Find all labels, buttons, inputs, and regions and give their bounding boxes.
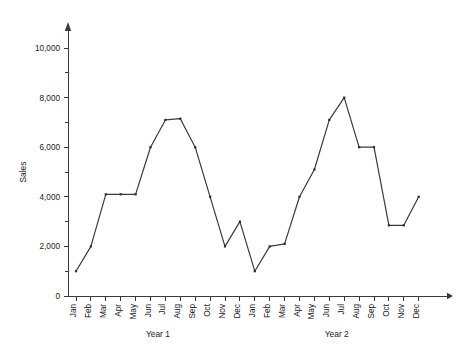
x-tick-label-month: Jul [158,304,167,315]
x-axis [68,293,453,301]
data-point-marker [403,224,405,226]
x-tick-label-month: Mar [99,304,108,318]
data-point-marker [224,245,226,247]
data-point-marker [343,97,345,99]
x-tick-label-month: Dec [412,304,421,319]
data-point-marker [269,245,271,247]
data-point-marker [75,270,77,272]
y-axis-arrow-icon [65,22,71,31]
y-tick-label: 8,000 [40,94,61,103]
y-axis [64,22,72,296]
x-axis-group-label: Year 1 [146,329,170,339]
x-tick-labels: JanFebMarAprMayJunJulAugSepOctNovDecJanF… [69,303,421,319]
x-tick-label-month: Dec [233,304,242,319]
y-tick-label: 6,000 [40,143,61,152]
data-point-marker [313,168,315,170]
x-tick-label-month: Oct [382,303,391,316]
x-tick-label-month: Jun [322,304,331,318]
data-point-marker [135,193,137,195]
data-point-marker [239,221,241,223]
x-tick-label-month: Jan [248,304,257,318]
y-tick-label: 10,000 [35,44,60,53]
data-point-marker [418,196,420,198]
x-tick-label-month: Sep [188,304,197,319]
x-tick-label-month: Apr [114,304,123,317]
x-tick-label-month: Nov [397,303,406,318]
x-tick-label-month: Jun [144,304,153,318]
data-point-marker [388,224,390,226]
x-tick-label-month: Nov [218,303,227,318]
chart-canvas: 02,0004,0006,0008,00010,000 JanFebMarApr… [0,0,462,352]
data-point-marker [373,146,375,148]
data-point-marker [164,119,166,121]
y-tick-label: 0 [55,292,60,301]
data-point-marker [105,193,107,195]
y-tick-label: 2,000 [40,242,61,251]
x-tick-label-month: Jan [69,304,78,318]
x-axis-group-label: Year 2 [325,329,349,339]
data-point-marker [179,118,181,120]
data-point-marker [120,193,122,195]
x-tick-label-month: Feb [84,304,93,319]
x-tick-label-month: Sep [367,304,376,319]
sales-series [75,97,420,273]
x-tick-label-month: Mar [278,304,287,318]
x-tick-label-month: Oct [203,303,212,316]
data-point-marker [209,196,211,198]
x-tick-label-month: May [307,303,316,319]
x-tick-label-month: Apr [293,304,302,317]
data-point-marker [90,245,92,247]
x-tick-label-month: Feb [263,304,272,319]
x-tick-label-month: Aug [352,304,361,319]
x-tick-label-month: Aug [173,304,182,319]
data-point-marker [194,146,196,148]
data-point-marker [358,146,360,148]
data-point-marker [254,270,256,272]
x-axis-arrow-icon [447,293,453,299]
y-tick-label: 4,000 [40,193,61,202]
data-point-marker [284,243,286,245]
y-axis-title: Sales [18,162,28,183]
data-point-marker [328,119,330,121]
y-tick-labels: 02,0004,0006,0008,00010,000 [35,44,60,301]
data-point-marker [298,196,300,198]
sales-line-path [76,98,419,272]
x-tick-label-month: Jul [337,304,346,315]
data-point-marker [149,146,151,148]
sales-line-chart: 02,0004,0006,0008,00010,000 JanFebMarApr… [0,0,462,352]
x-tick-label-month: May [129,303,138,319]
